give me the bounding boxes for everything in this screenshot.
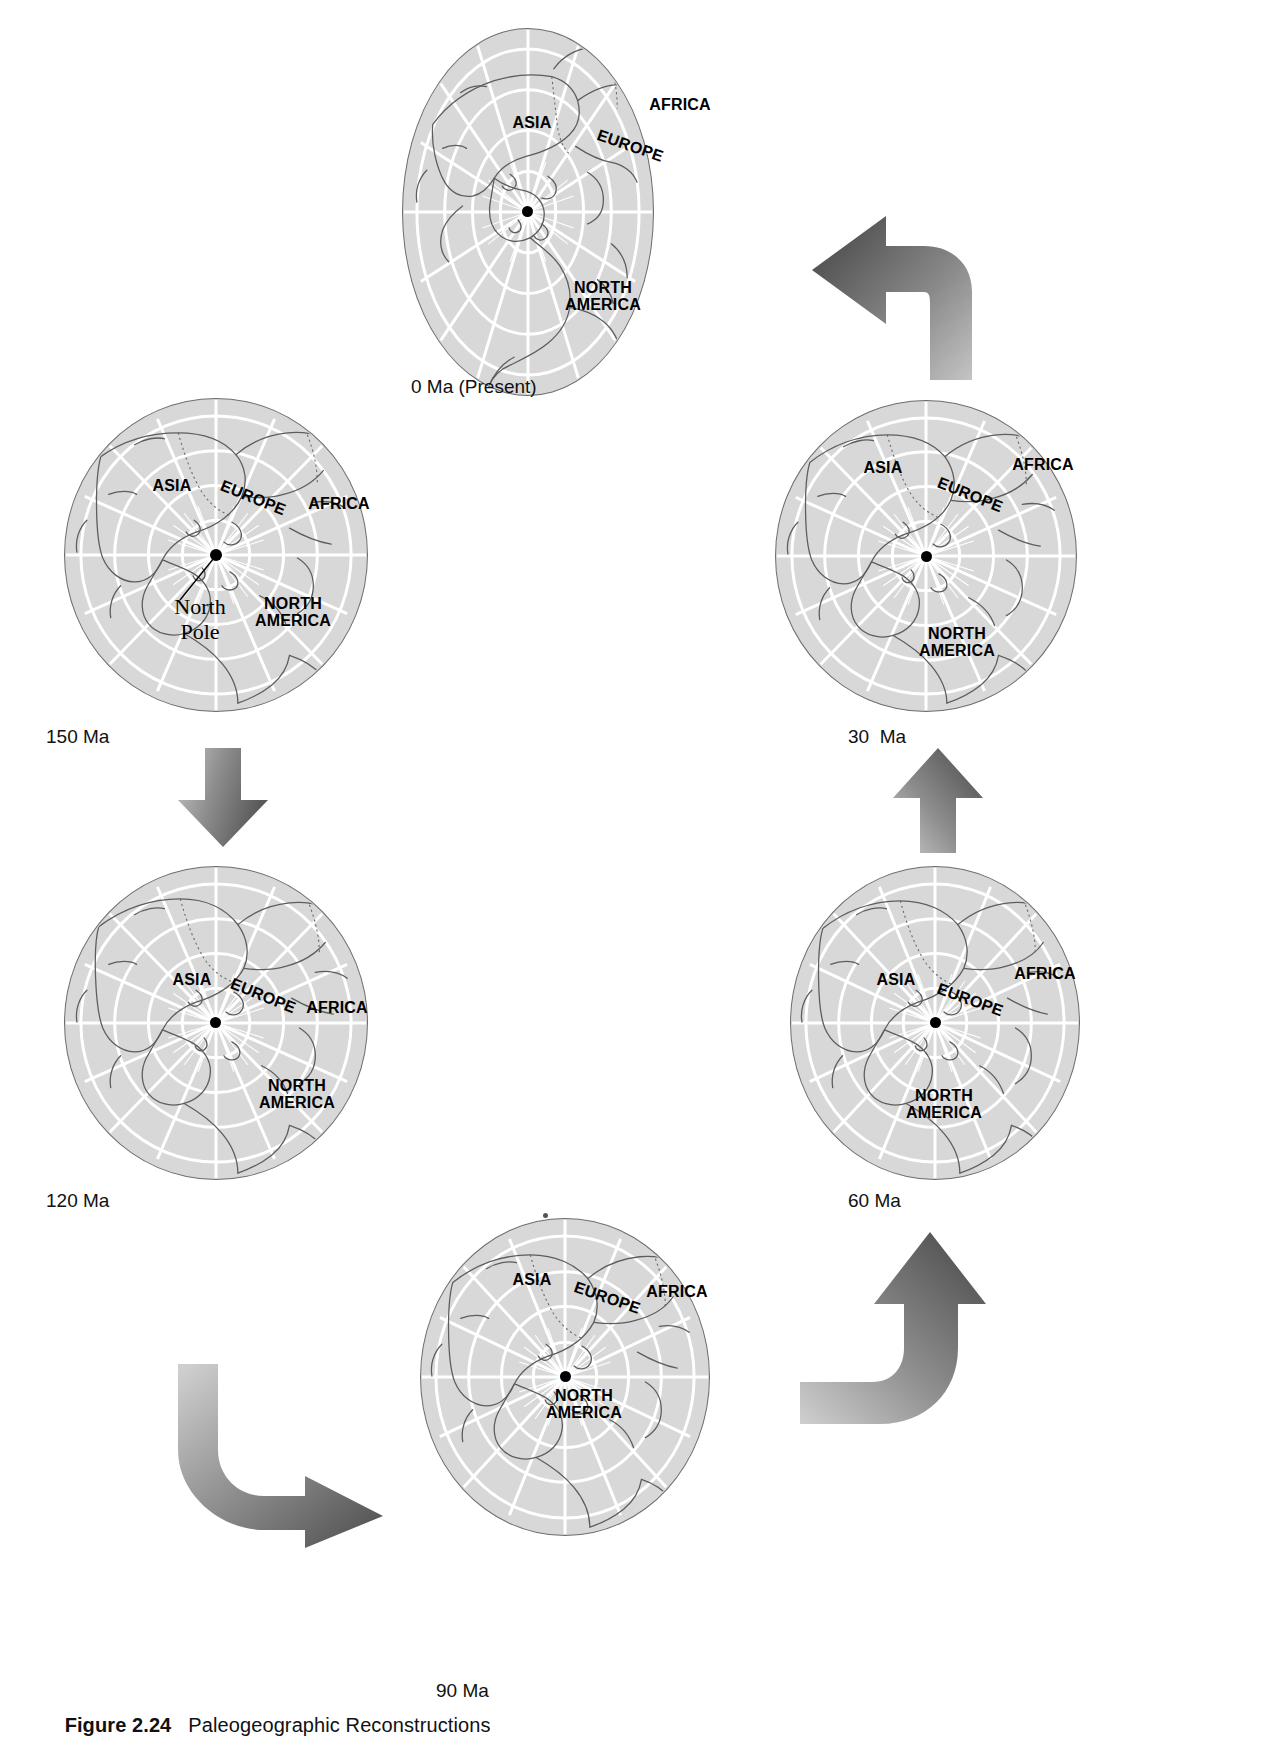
arrow-60-to-30: [888, 748, 988, 854]
arrow-down-icon: [168, 748, 278, 848]
figure-root: ASIA AFRICA EUROPE NORTH AMERICA 0 Ma (P…: [0, 0, 1275, 1756]
north-pole-callout: North Pole: [145, 595, 255, 644]
north-pole-dot: [522, 206, 533, 217]
time-label-150ma: 150 Ma: [46, 726, 109, 748]
scan-speck: [543, 1213, 548, 1218]
globe-90ma: [420, 1218, 710, 1536]
arrow-curve-down-right-icon: [168, 1358, 418, 1548]
north-pole-leader-line: [64, 398, 368, 712]
figure-caption-text: Paleogeographic Reconstructions: [188, 1714, 490, 1736]
arrow-90-to-60: [800, 1232, 990, 1462]
time-label-30ma: 30 Ma: [848, 726, 906, 748]
time-label-60ma: 60 Ma: [848, 1190, 901, 1212]
arrow-curve-right-up-icon: [800, 1232, 990, 1462]
arrow-150-to-120: [168, 748, 278, 848]
north-pole-dot: [210, 1017, 221, 1028]
figure-caption-number: Figure 2.24: [65, 1714, 172, 1736]
globe-120ma: [64, 866, 368, 1180]
arrow-up-icon: [888, 748, 988, 854]
globe-150ma: [64, 398, 368, 712]
globe-60ma: [790, 866, 1080, 1180]
time-label-0ma: 0 Ma (Present): [411, 376, 537, 398]
time-label-120ma: 120 Ma: [46, 1190, 109, 1212]
figure-caption: Figure 2.24 Paleogeographic Reconstructi…: [42, 1691, 1222, 1756]
north-pole-dot: [560, 1371, 571, 1382]
arrow-30-to-0: [812, 164, 1012, 380]
arrow-120-to-90: [168, 1358, 418, 1548]
globe-30ma: [775, 400, 1077, 712]
north-pole-dot: [921, 551, 932, 562]
globe-0ma: [402, 28, 654, 396]
arrow-curve-up-left-icon: [812, 164, 1012, 380]
north-pole-dot: [930, 1017, 941, 1028]
